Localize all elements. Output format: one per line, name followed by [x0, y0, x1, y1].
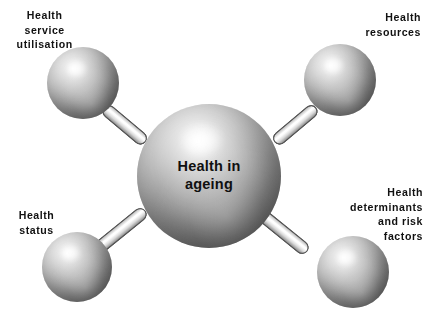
node-label-health-resources: Health resources — [353, 10, 421, 39]
center-node-label: Health in ageing — [137, 157, 281, 193]
node-label-health-determinants-and-risk-factors: Health determinants and risk factors — [342, 185, 423, 243]
node-label-health-status: Health status — [8, 208, 65, 237]
node-sphere-health-determinants-and-risk-factors — [317, 236, 389, 308]
diagram-canvas: Health in ageing Health service utilisat… — [0, 0, 431, 319]
center-node-sphere-health-in-ageing: Health in ageing — [137, 104, 281, 248]
node-sphere-health-status — [42, 232, 112, 302]
node-sphere-health-resources — [304, 44, 376, 116]
node-sphere-health-service-utilisation — [47, 47, 119, 119]
connector-top-right — [270, 103, 320, 148]
node-label-health-service-utilisation: Health service utilisation — [6, 8, 83, 52]
